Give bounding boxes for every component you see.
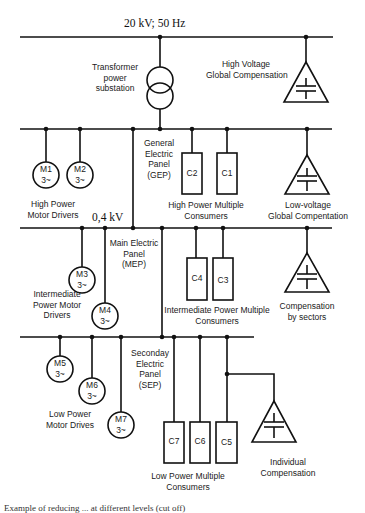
transformer-primary-winding-icon — [147, 67, 173, 93]
consumer-c6-label: C6 — [190, 436, 210, 447]
high-power-consumers-label: High Power MultipleConsumers — [166, 200, 246, 221]
motor-m5-label: M53~ — [50, 358, 70, 379]
sector-capacitor-bank-icon — [285, 253, 329, 292]
intermediate-consumers-label: Intermediate Power MultipleConsumers — [164, 305, 270, 326]
low-power-consumers-label: Low Power MultipleConsumers — [148, 471, 228, 492]
motor-m7-label: M73~ — [111, 414, 131, 435]
transformer-secondary-winding-icon — [147, 83, 173, 109]
lv-global-capacitor-bank-icon — [285, 155, 329, 194]
hv-bus-label: 20 kV; 50 Hz — [124, 18, 185, 29]
consumer-c7-label: C7 — [164, 436, 184, 447]
gep-label: General Electric Panel (GEP) — [140, 138, 178, 180]
consumer-c3-label: C3 — [213, 275, 233, 286]
figure-caption: Example of reducing ... at different lev… — [4, 503, 185, 513]
sep-label: SecondayElectricPanel(SEP) — [130, 348, 170, 390]
individual-capacitor-bank-icon — [252, 401, 296, 442]
consumer-c2-label: C2 — [182, 168, 202, 179]
consumer-c5-label: C5 — [216, 437, 237, 448]
high-power-motors-label: High PowerMotor Drivers — [26, 199, 80, 220]
motor-m4-label: M43~ — [95, 305, 115, 326]
lv-global-compensation-label: Low-voltageGlobal Compentation — [266, 200, 350, 221]
mep-label: Main ElectricPanel(MEP) — [108, 238, 160, 270]
hv-compensation-label: High Voltage Global Compensation — [206, 59, 286, 80]
low-power-motors-label: Low PowerMotor Drives — [44, 409, 96, 430]
motor-m2-label: M23~ — [70, 164, 90, 185]
hv-capacitor-bank-icon — [284, 62, 328, 102]
motor-m3-label: M33~ — [72, 269, 92, 290]
intermediate-motors-label: IntermediatePower MotorDrivers — [30, 289, 84, 321]
consumer-c1-label: C1 — [217, 168, 237, 179]
motor-m1-label: M13~ — [36, 164, 56, 185]
sector-compensation-label: Compensationby sectors — [278, 301, 336, 322]
lv-bus-label: 0,4 kV — [92, 212, 123, 223]
consumer-c4-label: C4 — [187, 273, 207, 284]
individual-compensation-label: IndividualCompensation — [258, 457, 318, 478]
transformer-label: Transformer power substation — [90, 62, 140, 94]
motor-m6-label: M63~ — [82, 380, 102, 401]
